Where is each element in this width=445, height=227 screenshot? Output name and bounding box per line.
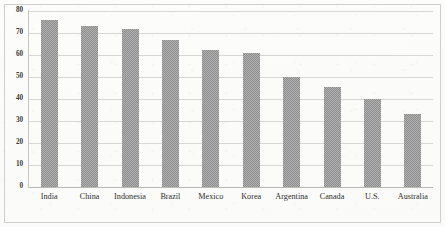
bar-australia	[404, 114, 421, 187]
bar-korea	[243, 53, 260, 187]
x-axis-labels: IndiaChinaIndonesiaBrazilMexicoKoreaArge…	[29, 192, 433, 212]
gridline-0	[29, 187, 433, 188]
y-tick-label-30: 30	[1, 117, 23, 124]
bar-u-s	[364, 99, 381, 187]
bar-indonesia	[122, 29, 139, 187]
y-tick-label-40: 40	[1, 95, 23, 102]
bar-canada	[324, 87, 341, 187]
bars-layer	[29, 11, 433, 187]
bar-mexico	[202, 50, 219, 188]
bar-chart-figure: IndiaChinaIndonesiaBrazilMexicoKoreaArge…	[0, 0, 445, 227]
bar-china	[81, 26, 98, 187]
y-tick-label-50: 50	[1, 73, 23, 80]
y-tick-label-10: 10	[1, 161, 23, 168]
y-tick-label-60: 60	[1, 51, 23, 58]
y-tick-label-80: 80	[1, 7, 23, 14]
bar-argentina	[283, 77, 300, 187]
bar-brazil	[162, 40, 179, 187]
y-tick-label-70: 70	[1, 29, 23, 36]
y-tick-label-0: 0	[1, 183, 23, 190]
y-tick-label-20: 20	[1, 139, 23, 146]
x-tick-label-australia: Australia	[382, 192, 444, 201]
bar-india	[41, 20, 58, 187]
